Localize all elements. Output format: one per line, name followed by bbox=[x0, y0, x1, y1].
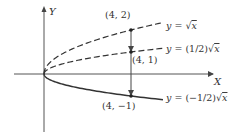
curve-label-sqrt: y = √x bbox=[165, 20, 197, 31]
point-label: (4, 2) bbox=[105, 9, 131, 20]
equation-prefix: y = bbox=[165, 20, 185, 31]
equation-coefficient: (1/2) bbox=[185, 43, 208, 54]
equation-prefix: y = bbox=[165, 92, 185, 103]
x-axis-label: X bbox=[213, 76, 222, 87]
sqrt-argument: x bbox=[191, 20, 197, 31]
point-label: (4, 1) bbox=[132, 54, 158, 65]
equation-coefficient: (−1/2) bbox=[185, 92, 216, 103]
y-axis-label: Y bbox=[49, 6, 57, 17]
equation-prefix: y = bbox=[165, 43, 185, 54]
curve-neg-half-sqrt bbox=[44, 74, 163, 100]
point-label: (4, −1) bbox=[102, 100, 136, 111]
curve-labels: y = √xy = (1/2)√xy = (−1/2)√x bbox=[165, 20, 228, 103]
sqrt-argument: x bbox=[222, 92, 228, 103]
y-axis-arrow-icon bbox=[42, 6, 47, 12]
curve-label-half-sqrt: y = (1/2)√x bbox=[165, 43, 220, 54]
point-marker bbox=[129, 94, 133, 98]
points: (4, 2)(4, 1)(4, −1) bbox=[102, 9, 158, 111]
sqrt-argument: x bbox=[214, 43, 220, 54]
diagram-figure: X Y (4, 2)(4, 1)(4, −1) y = √xy = (1/2)√… bbox=[0, 0, 247, 138]
curve-sqrt bbox=[44, 23, 163, 74]
curve-label-neg-half-sqrt: y = (−1/2)√x bbox=[165, 92, 228, 103]
point-marker bbox=[129, 28, 133, 32]
